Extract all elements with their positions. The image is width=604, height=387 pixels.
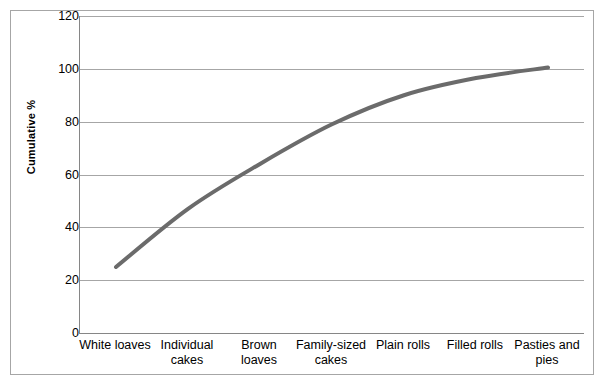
x-tick-label: Filled rolls xyxy=(439,338,511,353)
x-tick-label: Plain rolls xyxy=(367,338,439,353)
y-tick-label: 0 xyxy=(31,326,79,340)
cumulative-line-series xyxy=(80,16,584,333)
chart-container: Cumulative % 120 100 80 60 40 20 0 White… xyxy=(0,0,604,387)
x-tick-label: Family-sized cakes xyxy=(295,338,367,368)
y-tick-label: 80 xyxy=(31,115,79,129)
y-tick-label: 20 xyxy=(31,273,79,287)
x-tick-label: Brown loaves xyxy=(223,338,295,368)
y-axis-tick-labels: 120 100 80 60 40 20 0 xyxy=(31,11,79,376)
plot-area xyxy=(79,16,584,334)
x-tick-label: Pasties and pies xyxy=(511,338,583,368)
x-tick-label: White loaves xyxy=(79,338,151,353)
x-axis-tick-labels: White loaves Individual cakes Brown loav… xyxy=(79,338,583,380)
x-tick-label: Individual cakes xyxy=(151,338,223,368)
y-tick-label: 60 xyxy=(31,168,79,182)
y-tick-label: 40 xyxy=(31,220,79,234)
y-tick-label: 100 xyxy=(31,62,79,76)
chart-frame: Cumulative % 120 100 80 60 40 20 0 White… xyxy=(10,10,594,375)
y-tick-label: 120 xyxy=(31,9,79,23)
